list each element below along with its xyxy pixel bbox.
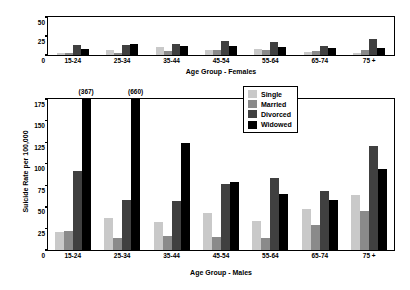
- bar-single: [302, 209, 311, 250]
- bar-married: [360, 211, 369, 250]
- x-axis-tick-label: 45-54: [196, 58, 245, 65]
- bar-single: [203, 213, 212, 250]
- bar-group: [147, 99, 196, 250]
- x-axis-tick-label: 15-24: [48, 58, 97, 65]
- bar-widowed: [377, 48, 385, 55]
- legend-swatch-divorced: [248, 110, 257, 118]
- males-y-axis-title: Suicide Rate per 100,000: [22, 97, 29, 247]
- y-axis-tick-label: 75: [38, 188, 48, 195]
- females-x-axis-title: Age Group - Females: [47, 68, 395, 75]
- y-axis-tick-label: 0: [41, 58, 48, 65]
- bar-divorced: [270, 42, 278, 55]
- bar-widowed: [131, 99, 140, 250]
- legend-swatch-widowed: [248, 121, 257, 129]
- bar-group: [97, 99, 146, 250]
- bar-divorced: [369, 39, 377, 55]
- bar-widowed: [82, 99, 91, 250]
- bar-group: [246, 17, 295, 55]
- bar-value-annotation: (660): [128, 89, 143, 96]
- x-axis-tick-label: 35-44: [147, 58, 196, 65]
- legend-item: Divorced: [248, 110, 292, 118]
- y-axis-tick-label: 50: [38, 210, 48, 217]
- x-axis-tick-label: 75 +: [345, 253, 394, 260]
- y-axis-tick-label: 150: [34, 123, 48, 130]
- bar-married: [64, 231, 73, 250]
- bar-group: [295, 99, 344, 250]
- x-axis-tick-label: 25-34: [97, 58, 146, 65]
- y-axis-tick-label: 25: [38, 39, 48, 46]
- bar-groups: [48, 17, 394, 55]
- bar-married: [212, 237, 221, 250]
- bar-divorced: [221, 41, 229, 55]
- legend-swatch-single: [248, 90, 257, 98]
- y-axis-tick-label: 50: [38, 20, 48, 27]
- bar-widowed: [328, 48, 336, 55]
- males-plot-area: 025507510012515017515-2425-3435-4445-545…: [47, 98, 395, 251]
- bar-married: [311, 225, 320, 250]
- x-axis-tick-label: 55-64: [246, 253, 295, 260]
- x-axis-tick-label: 65-74: [295, 58, 344, 65]
- legend-label-single: Single: [261, 91, 282, 98]
- bar-groups: [48, 99, 394, 250]
- females-plot-area: 0255015-2425-3435-4445-5455-6465-7475 +: [47, 16, 395, 56]
- y-axis-tick-label: 0: [41, 253, 48, 260]
- bar-married: [261, 238, 270, 250]
- bar-divorced: [73, 45, 81, 55]
- females-chart-panel: 0255015-2425-3435-4445-5455-6465-7475 + …: [0, 0, 410, 78]
- bar-widowed: [130, 44, 138, 55]
- bar-group: [48, 17, 97, 55]
- bar-single: [252, 221, 261, 250]
- x-axis-labels: 15-2425-3435-4445-5455-6465-7475 +: [48, 55, 394, 65]
- x-axis-tick-label: 55-64: [246, 58, 295, 65]
- bar-widowed: [180, 46, 188, 55]
- bar-single: [104, 218, 113, 250]
- bar-widowed: [279, 194, 288, 250]
- y-axis-tick-label: 175: [34, 102, 48, 109]
- legend-item: Widowed: [248, 121, 292, 129]
- x-axis-tick-label: 25-34: [97, 253, 146, 260]
- bar-widowed: [378, 169, 387, 250]
- bar-single: [156, 47, 164, 55]
- bar-divorced: [73, 171, 82, 250]
- bar-married: [163, 236, 172, 250]
- bar-divorced: [172, 44, 180, 55]
- bar-widowed: [230, 182, 239, 250]
- bar-group: [345, 17, 394, 55]
- legend-item: Married: [248, 100, 292, 108]
- bar-single: [55, 232, 64, 250]
- bar-widowed: [278, 47, 286, 55]
- bar-divorced: [122, 200, 131, 250]
- y-axis-tick-label: 25: [38, 231, 48, 238]
- bar-divorced: [320, 191, 329, 250]
- bar-divorced: [122, 45, 130, 55]
- legend-label-divorced: Divorced: [261, 111, 291, 118]
- bar-single: [154, 222, 163, 250]
- x-axis-tick-label: 15-24: [48, 253, 97, 260]
- bar-divorced: [369, 146, 378, 250]
- bar-divorced: [320, 46, 328, 55]
- legend-item: Single: [248, 90, 292, 98]
- bar-single: [351, 195, 360, 250]
- y-axis-tick-label: 100: [34, 166, 48, 173]
- x-axis-labels: 15-2425-3435-4445-5455-6465-7475 +: [48, 250, 394, 260]
- bar-widowed: [229, 46, 237, 55]
- legend-swatch-married: [248, 100, 257, 108]
- bar-widowed: [329, 200, 338, 250]
- x-axis-tick-label: 75 +: [345, 58, 394, 65]
- bar-widowed: [181, 143, 190, 250]
- bar-group: [196, 99, 245, 250]
- bar-married: [113, 238, 122, 250]
- bar-divorced: [172, 201, 181, 250]
- bar-divorced: [221, 184, 230, 250]
- y-axis-tick-label: 125: [34, 145, 48, 152]
- bar-group: [345, 99, 394, 250]
- chart-legend: Single Married Divorced Widowed: [243, 86, 298, 133]
- legend-label-widowed: Widowed: [261, 121, 292, 128]
- legend-label-married: Married: [261, 101, 286, 108]
- bar-group: [48, 99, 97, 250]
- bar-value-annotation: (367): [79, 89, 94, 96]
- bar-group: [196, 17, 245, 55]
- bar-group: [147, 17, 196, 55]
- males-chart-panel: 025507510012515017515-2425-3435-4445-545…: [0, 88, 410, 290]
- bar-group: [295, 17, 344, 55]
